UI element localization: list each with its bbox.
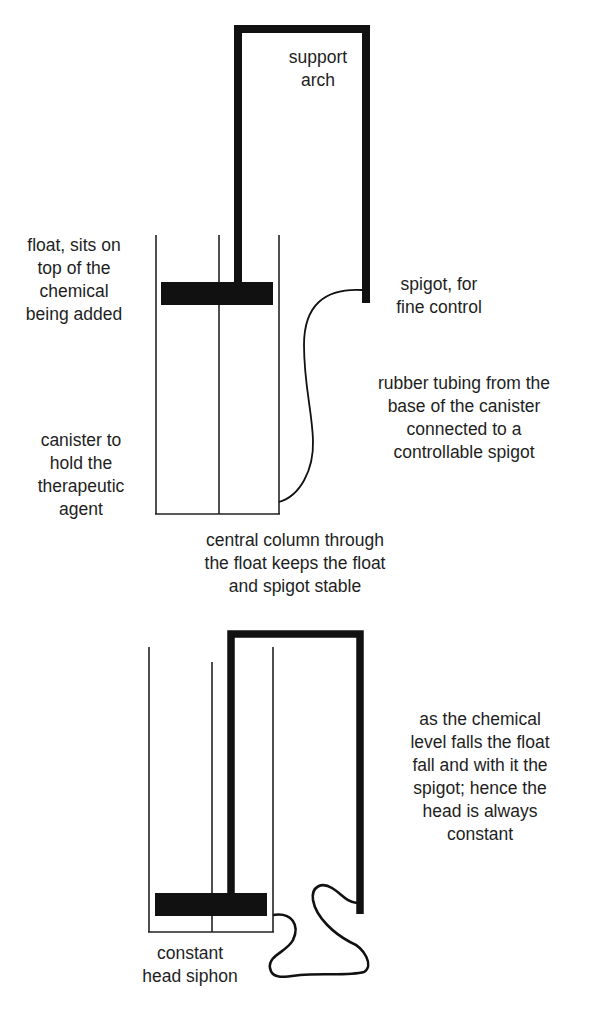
- label-rubber-tubing: rubber tubing from the base of the canis…: [340, 372, 588, 464]
- top-diagram: [155, 29, 366, 514]
- label-float: float, sits on top of the chemical being…: [4, 234, 144, 326]
- label-central-column: central column through the float keeps t…: [160, 529, 430, 598]
- label-canister: canister to hold the therapeutic agent: [16, 429, 146, 521]
- bottom-diagram: [148, 634, 368, 977]
- label-support-arch: support arch: [268, 46, 368, 92]
- rubber-tubing-looped: [270, 885, 368, 977]
- label-explanation: as the chemical level falls the float fa…: [380, 708, 580, 846]
- support-arch-lowered: [231, 634, 360, 914]
- label-spigot: spigot, for fine control: [380, 273, 498, 319]
- label-constant-head-siphon: constant head siphon: [120, 942, 260, 988]
- float-lowered: [155, 893, 267, 916]
- canister-lowered: [148, 647, 274, 932]
- float: [161, 282, 273, 305]
- canister: [155, 235, 280, 514]
